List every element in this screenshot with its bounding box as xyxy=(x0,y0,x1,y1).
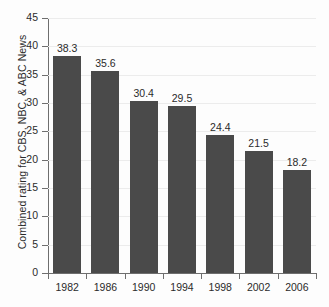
y-tick-mark xyxy=(42,131,48,132)
y-tick-mark xyxy=(42,216,48,217)
y-tick-mark xyxy=(42,160,48,161)
bar-value-label: 38.3 xyxy=(45,43,89,54)
y-tick-label: 45 xyxy=(14,12,38,22)
bar-value-label: 18.2 xyxy=(275,157,319,168)
bar xyxy=(130,101,158,273)
bar-value-label: 24.4 xyxy=(198,122,242,133)
x-tick-mark xyxy=(48,274,49,279)
gridline xyxy=(48,75,316,76)
bar xyxy=(283,170,311,273)
x-tick-mark xyxy=(278,274,279,279)
y-tick-label: 25 xyxy=(14,125,38,135)
bar xyxy=(206,135,234,273)
y-tick-label: 0 xyxy=(14,267,38,277)
bar-chart: Combined rating for CBS, NBC, & ABC News… xyxy=(0,0,329,307)
bar xyxy=(168,106,196,273)
bar xyxy=(245,151,273,273)
y-tick-mark xyxy=(42,18,48,19)
y-tick-label: 5 xyxy=(14,239,38,249)
x-tick-mark xyxy=(125,274,126,279)
y-tick-mark xyxy=(42,103,48,104)
y-tick-label: 15 xyxy=(14,182,38,192)
y-tick-label: 35 xyxy=(14,69,38,79)
bar xyxy=(91,71,119,273)
bar-value-label: 35.6 xyxy=(83,58,127,69)
y-axis-title: Combined rating for CBS, NBC, & ABC News xyxy=(16,12,32,272)
y-tick-mark xyxy=(42,75,48,76)
bar-value-label: 29.5 xyxy=(160,93,204,104)
x-axis-line xyxy=(48,273,317,274)
bar xyxy=(53,56,81,273)
y-tick-label: 10 xyxy=(14,210,38,220)
y-tick-mark xyxy=(42,245,48,246)
x-tick-mark xyxy=(163,274,164,279)
bar-value-label: 21.5 xyxy=(237,138,281,149)
y-tick-mark xyxy=(42,188,48,189)
x-tick-mark xyxy=(316,274,317,279)
y-tick-label: 20 xyxy=(14,154,38,164)
x-tick-mark xyxy=(239,274,240,279)
x-tick-label: 2006 xyxy=(273,281,321,293)
y-tick-label: 30 xyxy=(14,97,38,107)
x-tick-mark xyxy=(201,274,202,279)
y-tick-label: 40 xyxy=(14,40,38,50)
gridline xyxy=(48,18,316,19)
x-tick-mark xyxy=(86,274,87,279)
